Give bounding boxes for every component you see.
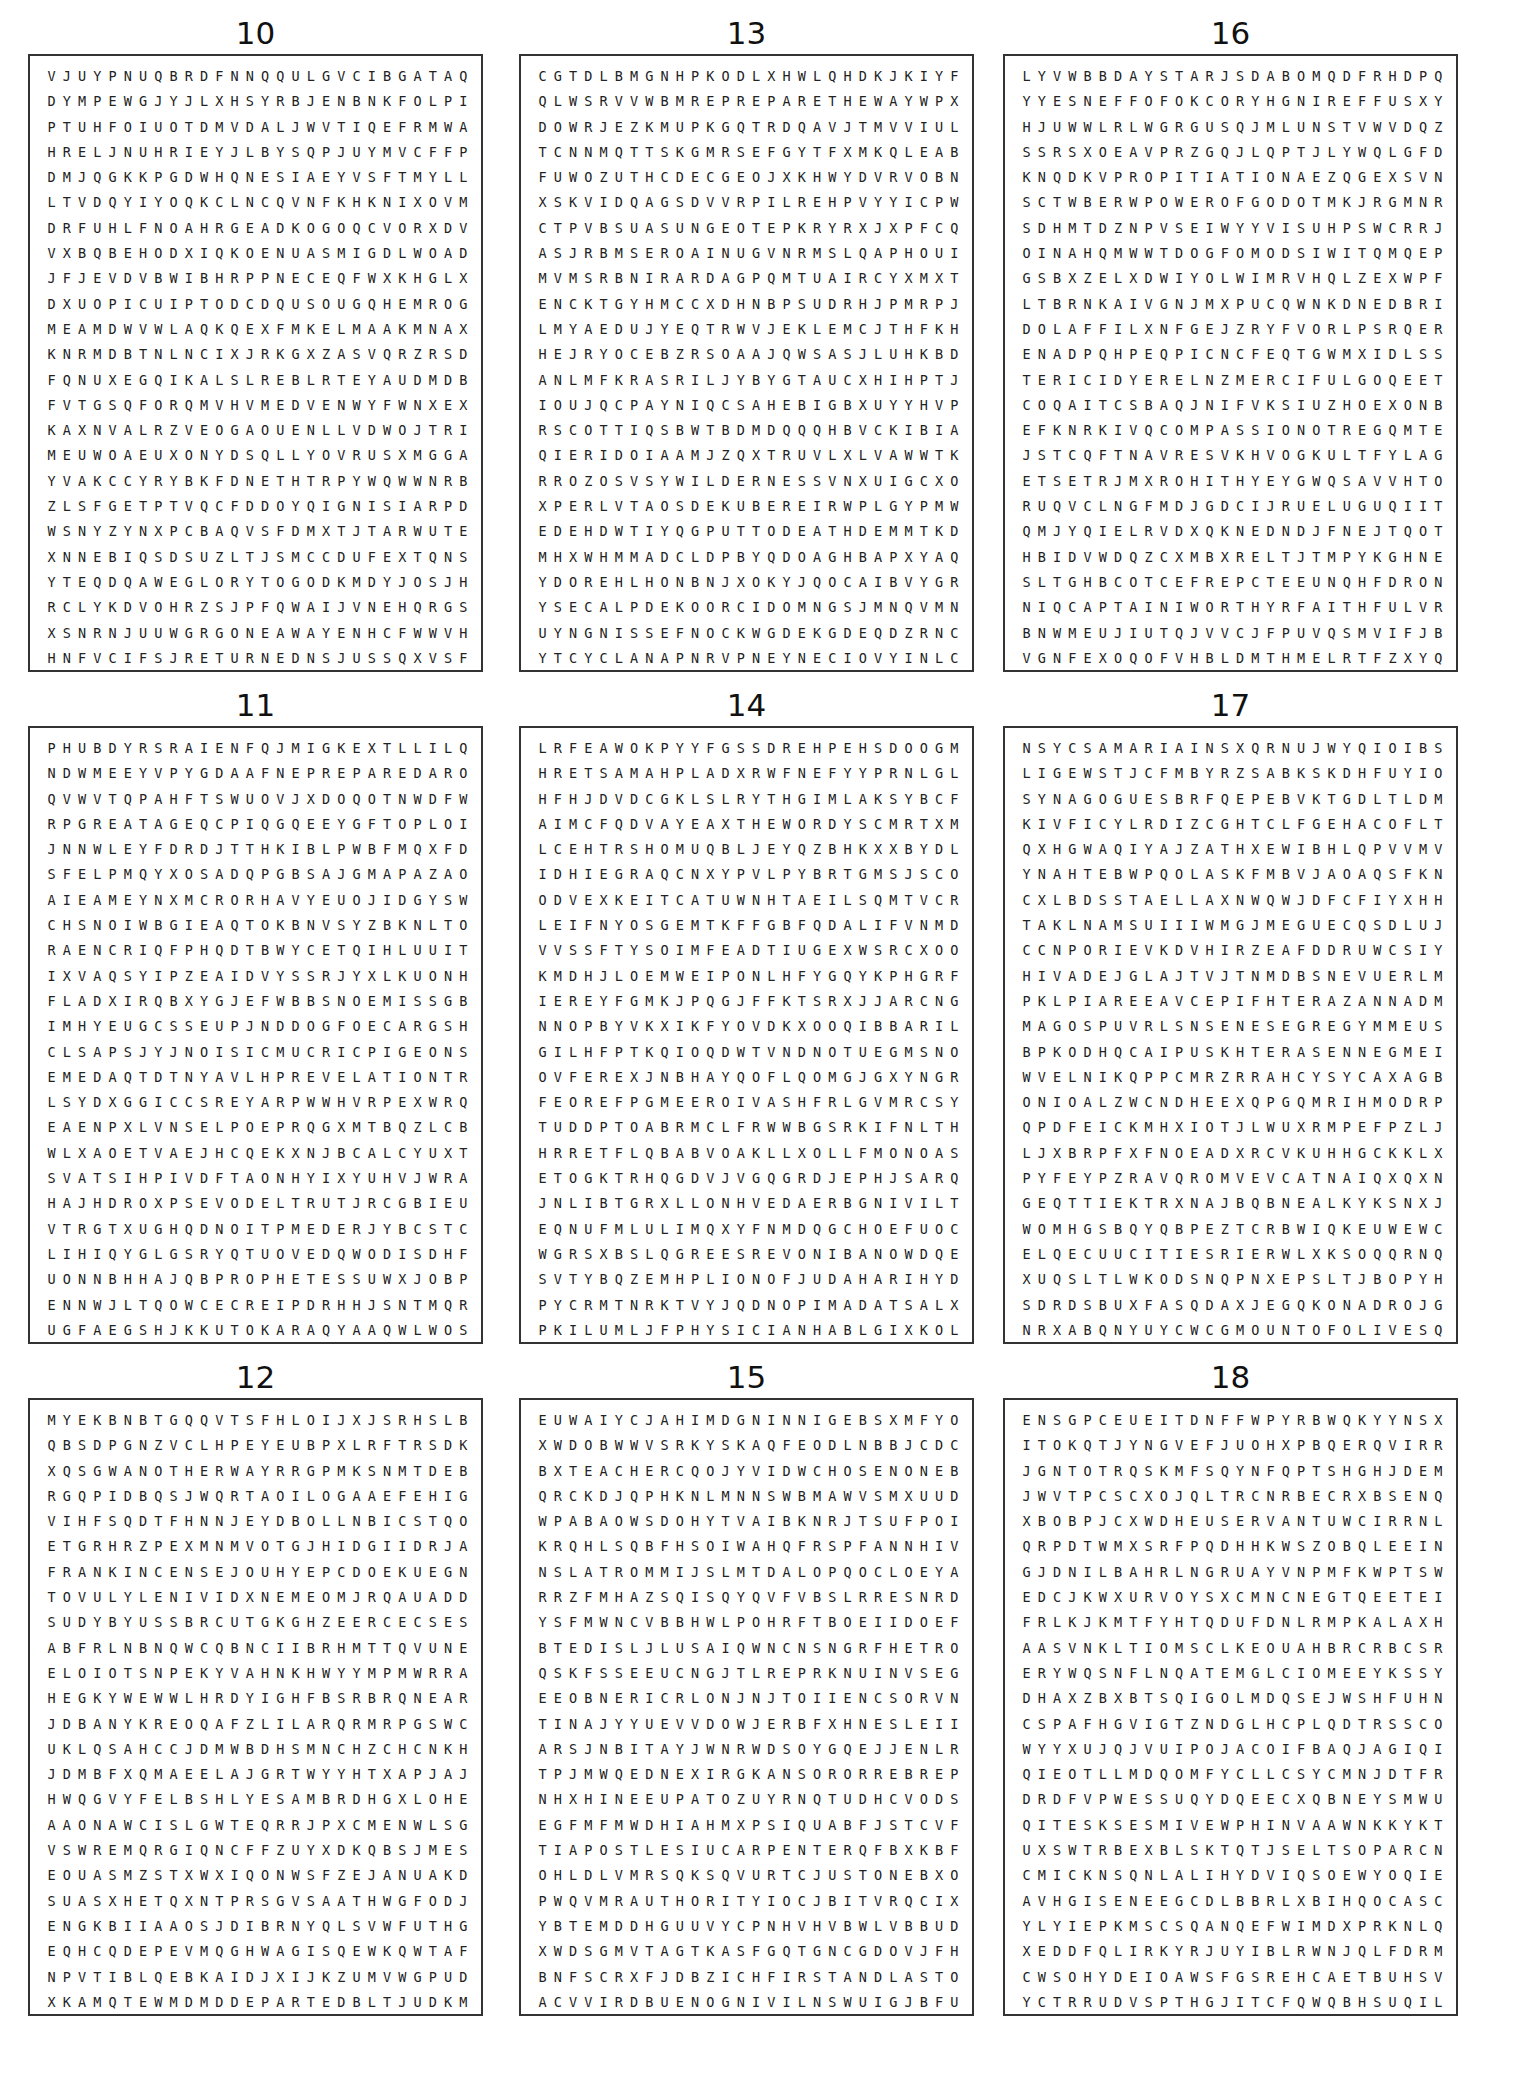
grid-letter: O: [395, 812, 410, 837]
grid-letter: Q: [212, 241, 227, 266]
grid-letter: L: [901, 140, 916, 165]
grid-letter: O: [456, 862, 471, 887]
grid-letter: Y: [611, 1408, 626, 1433]
grid-letter: R: [319, 469, 334, 494]
grid-letter: J: [886, 1737, 901, 1762]
grid-letter: W: [349, 1242, 364, 1267]
grid-letter: F: [1385, 1939, 1400, 1964]
grid-letter: O: [1385, 736, 1400, 761]
grid-letter: Q: [151, 989, 166, 1014]
grid-letter: H: [227, 393, 242, 418]
grid-letter: U: [136, 64, 151, 89]
grid-letter: Q: [1370, 1166, 1385, 1191]
grid-letter: N: [120, 140, 135, 165]
grid-letter: O: [1065, 1762, 1080, 1787]
grid-letter: A: [886, 443, 901, 468]
grid-letter: L: [136, 1585, 151, 1610]
grid-letter: K: [1080, 1863, 1095, 1888]
grid-letter: U: [1294, 621, 1309, 646]
grid-letter: K: [273, 1610, 288, 1635]
grid-letter: E: [75, 1408, 90, 1433]
grid-letter: O: [871, 1217, 886, 1242]
grid-letter: F: [1355, 89, 1370, 114]
grid-letter: N: [151, 216, 166, 241]
grid-row: HNFVCIFSJRETURNEDNSJUSSQXVSF: [44, 646, 471, 671]
grid-letter: H: [273, 1560, 288, 1585]
grid-letter: P: [1172, 342, 1187, 367]
grid-letter: S: [779, 1737, 794, 1762]
grid-letter: E: [75, 862, 90, 887]
grid-letter: L: [566, 1560, 581, 1585]
grid-letter: S: [1141, 1914, 1156, 1939]
grid-letter: H: [840, 837, 855, 862]
grid-letter: L: [425, 1115, 440, 1140]
grid-letter: W: [1431, 1560, 1446, 1585]
grid-letter: E: [1187, 443, 1202, 468]
grid-letter: R: [947, 1737, 962, 1762]
grid-letter: Q: [840, 1560, 855, 1585]
grid-letter: P: [242, 266, 257, 291]
grid-letter: T: [1034, 292, 1049, 317]
grid-letter: L: [901, 1712, 916, 1737]
grid-letter: L: [840, 1585, 855, 1610]
grid-letter: A: [395, 1585, 410, 1610]
grid-letter: Q: [947, 545, 962, 570]
grid-letter: N: [1111, 494, 1126, 519]
grid-letter: I: [1034, 241, 1049, 266]
grid-letter: I: [1172, 913, 1187, 938]
grid-letter: E: [1355, 1115, 1370, 1140]
grid-letter: P: [947, 393, 962, 418]
grid-letter: E: [642, 1661, 657, 1686]
grid-row: NPVTIBLQEBKAIDJXIJKZUMVWGPUD: [44, 1965, 471, 1990]
grid-letter: D: [181, 165, 196, 190]
grid-letter: O: [688, 595, 703, 620]
grid-letter: A: [166, 1762, 181, 1787]
grid-letter: L: [1416, 1115, 1431, 1140]
grid-letter: C: [1156, 418, 1171, 443]
grid-letter: C: [1248, 1217, 1263, 1242]
puzzle-15: 15 EUWAIYCJAHIMDGNINNIGEBSXMFYOXWDOBWWVS…: [519, 1356, 974, 2016]
grid-letter: M: [1248, 241, 1263, 266]
grid-letter: Y: [120, 190, 135, 215]
grid-letter: E: [197, 140, 212, 165]
grid-letter: C: [1156, 1914, 1171, 1939]
grid-letter: L: [242, 140, 257, 165]
grid-letter: A: [212, 1712, 227, 1737]
grid-letter: O: [1263, 1737, 1278, 1762]
grid-letter: I: [1217, 938, 1232, 963]
grid-letter: K: [1324, 292, 1339, 317]
grid-row: LEIFNYOSGEMTKFFGBFQDALIFVNMD: [535, 913, 962, 938]
grid-letter: E: [75, 938, 90, 963]
grid-letter: W: [535, 1242, 550, 1267]
grid-letter: E: [1034, 1939, 1049, 1964]
grid-letter: U: [672, 115, 687, 140]
grid-letter: J: [1416, 1293, 1431, 1318]
grid-letter: X: [596, 1242, 611, 1267]
grid-letter: U: [1294, 736, 1309, 761]
grid-letter: X: [932, 812, 947, 837]
grid-letter: D: [1095, 216, 1110, 241]
grid-letter: Q: [197, 317, 212, 342]
grid-letter: O: [258, 1166, 273, 1191]
letter-grid: LYVWBBDAYSTARJSDABOMQDFRHDPQYYESNEFFOFOK…: [1003, 54, 1458, 672]
grid-letter: K: [1370, 545, 1385, 570]
grid-letter: E: [334, 621, 349, 646]
grid-letter: B: [227, 1636, 242, 1661]
grid-letter: P: [1431, 1090, 1446, 1115]
grid-letter: T: [288, 1191, 303, 1216]
grid-letter: W: [733, 1040, 748, 1065]
grid-letter: M: [657, 1560, 672, 1585]
grid-letter: W: [1324, 241, 1339, 266]
grid-letter: R: [1126, 1166, 1141, 1191]
grid-letter: L: [947, 761, 962, 786]
grid-letter: T: [535, 1712, 550, 1737]
grid-letter: I: [764, 1889, 779, 1914]
grid-letter: C: [947, 646, 962, 671]
grid-letter: I: [1416, 494, 1431, 519]
grid-letter: L: [718, 1610, 733, 1635]
grid-letter: L: [642, 1838, 657, 1863]
grid-letter: W: [1248, 888, 1263, 913]
grid-letter: N: [273, 1863, 288, 1888]
grid-letter: O: [947, 1040, 962, 1065]
grid-letter: B: [1202, 646, 1217, 671]
